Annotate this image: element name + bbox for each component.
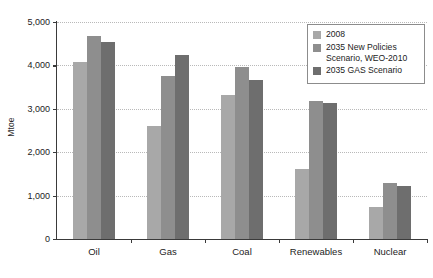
bar bbox=[73, 62, 87, 239]
legend-item-label: 2008 bbox=[326, 29, 345, 40]
x-tick-mark bbox=[279, 239, 280, 243]
bar bbox=[221, 95, 235, 239]
y-axis-title: Mtoe bbox=[6, 102, 16, 152]
x-axis-category-label: Oil bbox=[88, 246, 100, 257]
bar-group-oil bbox=[73, 22, 115, 239]
x-tick-mark bbox=[353, 239, 354, 243]
y-axis-tick-label: 2,000 bbox=[27, 147, 50, 157]
legend-item-label: 2035 New Policies Scenario, WEO-2010 bbox=[326, 42, 419, 64]
y-axis-tick-label: 0 bbox=[45, 234, 50, 244]
legend-item[interactable]: 2035 New Policies Scenario, WEO-2010 bbox=[313, 42, 419, 64]
x-axis-category-label: Coal bbox=[232, 246, 252, 257]
x-tick-mark bbox=[131, 239, 132, 243]
bar bbox=[147, 126, 161, 239]
legend-item-label: 2035 GAS Scenario bbox=[326, 65, 402, 76]
x-tick-mark bbox=[205, 239, 206, 243]
bar bbox=[235, 67, 249, 239]
bar bbox=[87, 36, 101, 239]
legend-swatch-icon bbox=[313, 44, 321, 52]
y-tick-mark bbox=[53, 152, 57, 153]
x-axis-category-label: Gas bbox=[159, 246, 176, 257]
y-axis-tick-label: 5,000 bbox=[27, 17, 50, 27]
legend-swatch-icon bbox=[313, 31, 321, 39]
bar bbox=[295, 169, 309, 239]
bar-chart: Mtoe 01,0002,0003,0004,0005,000OilGasCoa… bbox=[0, 0, 433, 278]
x-tick-mark bbox=[427, 239, 428, 243]
bar bbox=[369, 207, 383, 239]
bar-group-coal bbox=[221, 22, 263, 239]
y-tick-mark bbox=[53, 196, 57, 197]
bar bbox=[101, 42, 115, 239]
chart-legend: 20082035 New Policies Scenario, WEO-2010… bbox=[307, 24, 425, 84]
y-axis-tick-label: 3,000 bbox=[27, 104, 50, 114]
x-axis-line bbox=[56, 239, 428, 240]
legend-swatch-icon bbox=[313, 67, 321, 75]
bar bbox=[397, 186, 411, 239]
legend-item[interactable]: 2035 GAS Scenario bbox=[313, 65, 419, 76]
bar bbox=[175, 55, 189, 239]
bar bbox=[323, 103, 337, 239]
y-tick-mark bbox=[53, 109, 57, 110]
bar bbox=[161, 76, 175, 239]
x-axis-category-label: Renewables bbox=[290, 246, 342, 257]
bar bbox=[309, 101, 323, 239]
bar bbox=[383, 183, 397, 239]
y-tick-mark bbox=[53, 22, 57, 23]
bar bbox=[249, 80, 263, 239]
y-tick-mark bbox=[53, 65, 57, 66]
y-axis-tick-label: 1,000 bbox=[27, 191, 50, 201]
y-tick-mark bbox=[53, 239, 57, 240]
x-axis-category-label: Nuclear bbox=[374, 246, 407, 257]
y-axis-tick-label: 4,000 bbox=[27, 60, 50, 70]
legend-item[interactable]: 2008 bbox=[313, 29, 419, 40]
bar-group-gas bbox=[147, 22, 189, 239]
